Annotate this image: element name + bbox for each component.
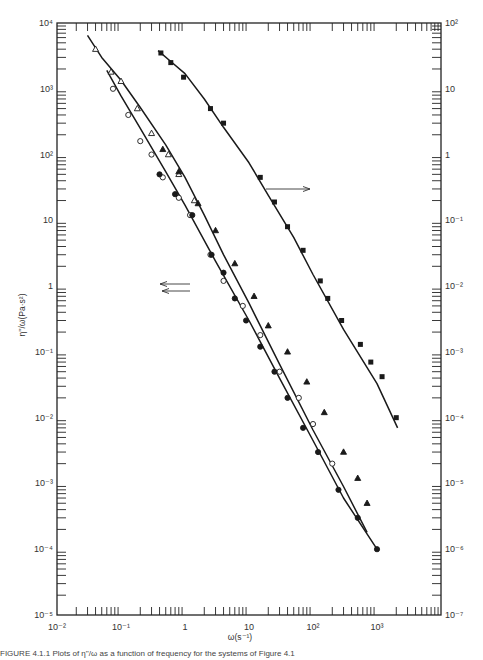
data-point-circle-filled (285, 395, 290, 400)
y-left-tick-label: 10² (40, 150, 53, 160)
data-point-square-filled (325, 296, 330, 301)
data-point-circle-open (277, 369, 282, 374)
data-point-circle-filled (272, 369, 277, 374)
data-point-circle-open (110, 86, 115, 91)
y-left-tick-label: 10⁻² (35, 413, 53, 423)
y-left-tick-label: 1 (48, 281, 53, 291)
data-point-square-filled (272, 199, 277, 204)
data-point-circle-filled (172, 192, 177, 197)
data-point-triangle-filled (232, 260, 238, 265)
x-tick-label: 10⁻² (48, 622, 66, 632)
data-point-triangle-filled (285, 349, 291, 354)
data-point-circle-filled (374, 547, 379, 552)
data-point-triangle-open (93, 46, 99, 51)
data-point-triangle-filled (251, 293, 257, 298)
data-point-circle-filled (190, 213, 195, 218)
x-tick-label: 10⁻¹ (112, 622, 130, 632)
data-markers (93, 46, 399, 552)
data-point-circle-open (221, 278, 226, 283)
data-point-triangle-filled (321, 409, 327, 414)
y-left-tick-label: 10⁻³ (35, 478, 53, 488)
y-right-tick-label: 1 (445, 150, 450, 160)
y-left-tick-label: 10⁻¹ (35, 347, 53, 357)
x-tick-label: 10³ (370, 622, 383, 632)
data-point-circle-open (258, 332, 263, 337)
data-point-circle-filled (221, 270, 226, 275)
loglog-chart: 10⁻²10⁻¹11010²10³10⁴10³10²10110⁻¹10⁻²10⁻… (0, 0, 483, 660)
figure-caption: FIGURE 4.1.1 Plots of η''/ω as a functio… (0, 649, 483, 660)
fit-curve (107, 70, 377, 549)
data-point-triangle-filled (213, 227, 219, 232)
y-right-tick-label: 10 (445, 84, 455, 94)
data-point-circle-open (149, 152, 154, 157)
data-point-triangle-filled (364, 500, 370, 505)
data-point-square-filled (208, 106, 213, 111)
data-point-triangle-filled (304, 379, 310, 384)
x-tick-label: 10 (244, 622, 254, 632)
x-tick-label: 10² (306, 622, 319, 632)
y-left-tick-label: 10⁻⁵ (34, 610, 53, 620)
y-right-tick-label: 10⁻⁷ (445, 610, 463, 620)
y-left-tick-label: 10 (43, 215, 53, 225)
y-left-tick-label: 10⁻⁴ (34, 544, 53, 554)
data-point-circle-filled (157, 172, 162, 177)
data-point-triangle-filled (265, 323, 271, 328)
data-point-square-filled (158, 50, 163, 55)
data-point-circle-filled (258, 344, 263, 349)
data-point-circle-open (296, 395, 301, 400)
data-point-circle-filled (336, 487, 341, 492)
data-point-square-filled (380, 374, 385, 379)
data-point-square-filled (368, 360, 373, 365)
data-point-square-filled (339, 318, 344, 323)
y-right-tick-label: 10² (445, 18, 458, 28)
data-point-circle-open (138, 139, 143, 144)
data-point-triangle-open (118, 78, 124, 83)
data-point-square-filled (181, 75, 186, 80)
y-right-tick-label: 10⁻² (445, 281, 463, 291)
data-point-circle-open (330, 461, 335, 466)
data-point-triangle-open (149, 130, 155, 135)
data-point-circle-open (310, 421, 315, 426)
data-point-circle-filled (232, 296, 237, 301)
fitted-curves (88, 35, 398, 549)
data-point-circle-open (126, 112, 131, 117)
data-point-triangle-filled (160, 146, 166, 151)
data-point-square-filled (258, 175, 263, 180)
y-right-tick-label: 10⁻⁴ (445, 413, 464, 423)
y-left-tick-label: 10⁴ (39, 18, 53, 28)
data-point-circle-filled (315, 449, 320, 454)
data-point-triangle-filled (355, 475, 361, 480)
y-left-tick-label: 10³ (40, 84, 53, 94)
x-tick-label: 1 (182, 622, 187, 632)
data-point-square-filled (168, 60, 173, 65)
data-point-square-filled (301, 248, 306, 253)
data-point-circle-filled (209, 252, 214, 257)
y-axis-title: η''/ω(Pa·s²) (17, 293, 27, 336)
y-right-tick-label: 10⁻³ (445, 347, 463, 357)
data-point-square-filled (394, 415, 399, 420)
y-right-tick-label: 10⁻⁶ (445, 544, 464, 554)
data-point-square-filled (318, 278, 323, 283)
data-point-circle-open (240, 303, 245, 308)
x-axis-title: ω(s⁻¹) (228, 632, 253, 642)
data-point-circle-filled (300, 425, 305, 430)
tick-labels: 10⁻²10⁻¹11010²10³10⁴10³10²10110⁻¹10⁻²10⁻… (34, 18, 464, 632)
data-point-square-filled (285, 224, 290, 229)
data-point-circle-filled (355, 515, 360, 520)
data-point-circle-filled (243, 318, 248, 323)
y-right-tick-label: 10⁻¹ (445, 215, 463, 225)
y-right-tick-label: 10⁻⁵ (445, 478, 464, 488)
data-point-square-filled (358, 342, 363, 347)
data-point-triangle-filled (341, 449, 347, 454)
data-point-square-filled (221, 121, 226, 126)
